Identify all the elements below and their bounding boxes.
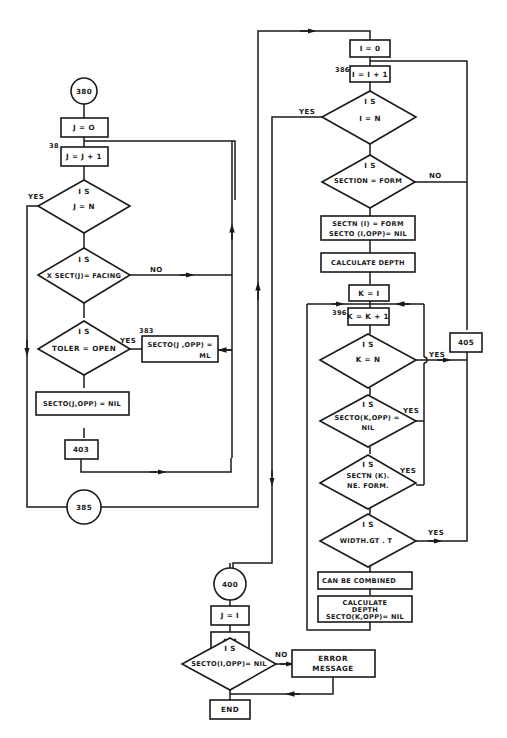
process-j-incr: J = J + 1 [61,147,108,166]
process-i-init: I = 0 [350,40,390,57]
yes-label: YES [119,337,136,345]
yes-label: YES [428,351,445,359]
svg-text:ML: ML [199,352,211,360]
process-k-init: K = I [349,285,389,301]
decision-j-eq-n: I S J = N YES [27,180,130,233]
label-386: 386 [335,66,350,74]
svg-text:NE. FORM.: NE. FORM. [347,482,389,490]
connector-label: 380 [76,87,92,96]
no-label: NO [275,651,288,659]
svg-text:385: 385 [76,503,92,512]
process-k-incr: K = K + 1 [347,308,389,325]
process-j-one: J = I [211,606,249,625]
svg-text:NIL: NIL [361,424,375,432]
svg-text:I S: I S [364,161,376,170]
svg-text:SECTO(I,OPP)= NIL: SECTO(I,OPP)= NIL [191,660,267,668]
svg-text:SECTN (I) = FORM: SECTN (I) = FORM [332,220,404,228]
svg-text:I S: I S [362,460,374,469]
decision-secto-k-nil: I S SECTO(K,OPP) = NIL YES [320,395,419,447]
svg-text:K = N: K = N [356,355,381,364]
process-secto-ml: SECTO(J ,OPP) = ML [142,336,218,362]
svg-text:J = N: J = N [72,202,95,211]
yes-label: YES [27,193,44,201]
svg-text:SECTN (K).: SECTN (K). [346,472,389,480]
svg-text:I S: I S [364,97,376,106]
process-i-incr: I = I + 1 [350,66,390,82]
svg-text:SECTION = FORM: SECTION = FORM [334,177,402,185]
svg-text:I S: I S [78,187,90,196]
svg-text:J = O: J = O [72,123,95,132]
process-calculate-depth-2: CALCULATE DEPTH SECTO(K,OPP)= NIL [318,596,412,622]
svg-text:WIDTH.GT . T: WIDTH.GT . T [340,537,393,545]
flowchart: 380 J = O 38 J = J + 1 I S J = N YES I S… [0,0,507,738]
svg-text:K = I: K = I [358,289,379,298]
label-396: 396 [332,309,347,317]
svg-text:I S: I S [78,255,90,264]
svg-text:I S: I S [362,520,374,529]
svg-text:MESSAGE: MESSAGE [312,664,353,673]
no-label: NO [150,266,163,274]
svg-text:CALCULATE DEPTH: CALCULATE DEPTH [331,259,405,267]
label-38: 38 [49,142,59,150]
svg-text:SECTO(K,OPP)= NIL: SECTO(K,OPP)= NIL [326,613,405,621]
label-383: 383 [139,327,154,335]
decision-toler-open: I S TOLER = OPEN YES [38,321,136,375]
svg-text:SECTO (I,OPP)= NIL: SECTO (I,OPP)= NIL [329,230,408,238]
svg-text:I = N: I = N [359,114,381,123]
svg-text:TOLER = OPEN: TOLER = OPEN [52,344,116,353]
terminal-end: END [210,700,250,719]
connector-400: 400 [214,568,246,600]
svg-text:X SECT(J)= FACING: X SECT(J)= FACING [47,272,121,280]
svg-text:I S: I S [362,340,374,349]
process-j-init: J = O [61,118,108,137]
svg-text:ERROR: ERROR [318,654,348,663]
svg-text:K = K + 1: K = K + 1 [347,312,389,321]
process-error-message: ERROR MESSAGE [292,650,375,677]
svg-text:END: END [221,705,239,714]
yes-label: YES [427,529,444,537]
svg-text:400: 400 [222,580,238,589]
process-calculate-depth: CALCULATE DEPTH [321,253,415,272]
svg-text:SECTO(J,OPP) = NIL: SECTO(J,OPP) = NIL [43,400,122,408]
yes-label: YES [298,108,315,116]
svg-text:I S: I S [362,400,374,409]
process-403: 403 [65,440,98,459]
process-can-be-combined: CAN BE COMBINED [318,572,412,589]
svg-text:I = I + 1: I = I + 1 [352,70,388,79]
process-sectn-form: SECTN (I) = FORM SECTO (I,OPP)= NIL [321,216,415,240]
decision-secto-i-nil: I S SECTO(I,OPP)= NIL NO [182,638,288,690]
svg-text:SECTO(J ,OPP) =: SECTO(J ,OPP) = [147,341,212,349]
svg-text:I S: I S [224,644,236,653]
connector-380: 380 [71,78,97,104]
process-secto-nil: SECTO(J,OPP) = NIL [36,392,129,415]
svg-text:J = I: J = I [220,611,239,620]
svg-text:405: 405 [458,338,474,347]
yes-label: YES [402,407,419,415]
connector-385: 385 [67,490,101,524]
svg-text:403: 403 [73,445,89,454]
svg-text:J = J + 1: J = J + 1 [65,152,102,161]
svg-text:I S: I S [78,327,90,336]
yes-label: YES [399,467,416,475]
svg-text:CAN BE COMBINED: CAN BE COMBINED [322,577,396,585]
process-405: 405 [450,333,482,352]
svg-text:I = 0: I = 0 [360,44,381,53]
no-label: NO [429,172,442,180]
svg-text:SECTO(K,OPP) =: SECTO(K,OPP) = [334,414,399,422]
decision-sectn-k-ne-form: I S SECTN (K). NE. FORM. YES [320,455,416,509]
